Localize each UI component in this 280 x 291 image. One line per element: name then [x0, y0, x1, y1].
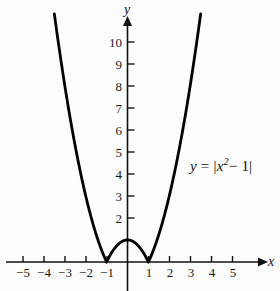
x-tick-label-3: 3 [188, 266, 195, 279]
x-axis-arrow-icon [258, 257, 268, 266]
equation-minus-one: − 1 [229, 158, 249, 174]
equation-close-abs-bar: | [249, 158, 252, 174]
x-tick-label-minus-2: −2 [79, 266, 93, 279]
curve-left-arm [54, 14, 106, 262]
x-tick-label-2: 2 [167, 266, 174, 279]
x-tick-label-4: 4 [209, 266, 216, 279]
graph-figure: 2 3 4 5 6 7 8 9 10 −5 −4 −3 −2 −1 1 2 3 … [0, 0, 280, 291]
x-tick-label-minus-5: −5 [16, 266, 30, 279]
y-axis-ticks [128, 42, 135, 218]
y-tick-label-7: 7 [116, 102, 123, 115]
curve-right-arm [148, 14, 200, 262]
y-axis-label: y [124, 3, 130, 17]
x-tick-label-minus-3: −3 [58, 266, 72, 279]
y-tick-label-5: 5 [116, 146, 123, 159]
x-tick-label-5: 5 [230, 266, 237, 279]
y-tick-label-4: 4 [116, 168, 123, 181]
equation-equals-sign: = [201, 158, 210, 174]
x-tick-label-minus-4: −4 [37, 266, 51, 279]
curve-equation-label: y = |x2− 1| [190, 158, 252, 175]
y-axis [123, 16, 132, 291]
x-axis-label: x [268, 255, 274, 269]
x-tick-label-1: 1 [146, 266, 153, 279]
y-tick-label-9: 9 [116, 58, 123, 71]
equation-lhs: y [190, 158, 197, 174]
x-tick-label-minus-1: −1 [100, 266, 114, 279]
plot-canvas [0, 0, 280, 291]
y-tick-label-6: 6 [116, 124, 123, 137]
equation-variable: x [217, 158, 224, 174]
y-tick-label-2: 2 [116, 212, 123, 225]
y-axis-arrow-icon [123, 16, 132, 26]
y-tick-label-3: 3 [116, 190, 123, 203]
y-tick-label-8: 8 [116, 80, 123, 93]
y-tick-label-10: 10 [109, 36, 122, 49]
